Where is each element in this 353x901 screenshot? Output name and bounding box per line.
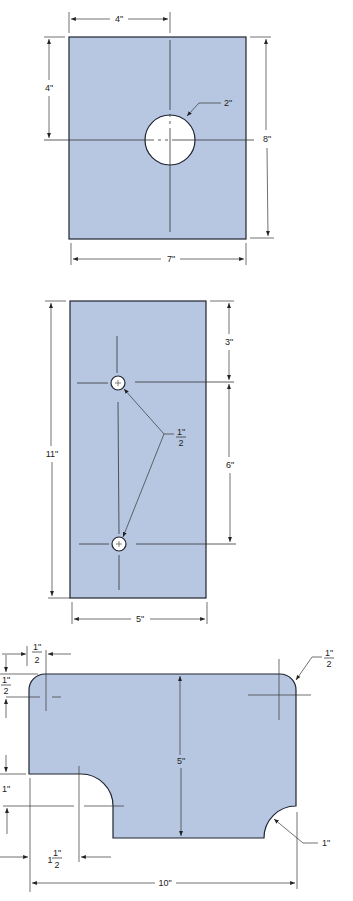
dim-right-6: 6" <box>226 460 234 470</box>
dim-bottom-5: 5" <box>136 614 144 624</box>
dim-right-8: 8" <box>263 134 271 144</box>
dim-corner-x-num: 1" <box>33 642 41 652</box>
dim-holes-num: 1" <box>177 427 185 437</box>
dim-offset-num: 1" <box>53 848 61 858</box>
dim-top-4: 4" <box>115 14 123 24</box>
plate-3: 1" 2 1" 2 1" 2 5" 1" 1 1" 2 1" <box>0 642 334 892</box>
technical-drawing: 4" 4" 2" 8" 7" <box>0 0 353 901</box>
dim-right-corner-den: 2 <box>326 659 331 669</box>
dim-holes-den: 2 <box>178 438 183 448</box>
plate-2: 1" 2 11" 3" 6" 5" <box>45 301 236 624</box>
dim-right-3: 3" <box>225 337 233 347</box>
dim-offset-den: 2 <box>54 860 59 870</box>
dim-corner-y-den: 2 <box>3 686 8 696</box>
dim-width-10: 10" <box>158 878 171 888</box>
dim-right-arc-1: 1" <box>322 838 330 848</box>
plate-2-body <box>70 301 206 598</box>
dim-notch-1: 1" <box>2 784 10 794</box>
plate-3-body <box>29 674 296 838</box>
dim-left-11: 11" <box>46 449 59 459</box>
dim-left-4: 4" <box>45 83 53 93</box>
dim-corner-y-num: 1" <box>2 675 10 685</box>
dim-corner-x-den: 2 <box>34 655 39 665</box>
plate-1: 4" 4" 2" 8" 7" <box>44 12 274 265</box>
dim-hole-2: 2" <box>224 98 232 108</box>
dim-height-5: 5" <box>177 756 185 766</box>
dim-right-corner-num: 1" <box>325 648 333 658</box>
dim-bottom-7: 7" <box>167 254 175 264</box>
dim-offset-whole: 1 <box>47 855 52 865</box>
